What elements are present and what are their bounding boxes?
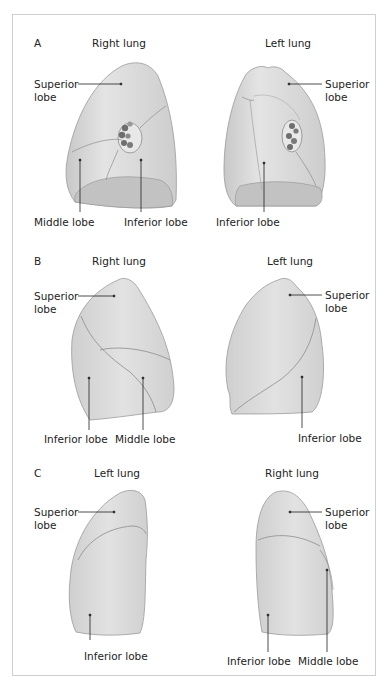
- a-left-superior-label-2: lobe: [325, 91, 347, 104]
- panel-b-left-lung: [226, 278, 324, 414]
- b-left-inferior-label: Inferior lobe: [298, 432, 362, 445]
- c-left-superior-label: Superior: [34, 506, 78, 519]
- b-right-superior-label: Superior: [34, 290, 78, 303]
- panel-a-left-title: Right lung: [92, 37, 146, 50]
- a-right-superior-label: Superior: [34, 78, 78, 91]
- panel-a-letter: A: [34, 37, 41, 50]
- panel-b-right-lung: [72, 278, 174, 420]
- panel-c-letter: C: [34, 467, 41, 480]
- a-right-superior-label-2: lobe: [34, 91, 56, 104]
- panel-a-right-title: Left lung: [265, 37, 311, 50]
- panel-b-left-title: Right lung: [92, 255, 146, 268]
- panel-c-right-title: Right lung: [265, 467, 319, 480]
- c-left-superior-label-2: lobe: [34, 519, 56, 532]
- b-right-superior-label-2: lobe: [34, 303, 56, 316]
- c-right-middle-label: Middle lobe: [298, 655, 359, 668]
- a-right-middle-label: Middle lobe: [34, 216, 95, 229]
- c-right-superior-label-2: lobe: [325, 519, 347, 532]
- b-left-superior-label: Superior: [325, 289, 369, 302]
- a-left-superior-label: Superior: [325, 78, 369, 91]
- panel-c-right-lung: [256, 491, 333, 635]
- c-right-superior-label: Superior: [325, 506, 369, 519]
- panel-b-letter: B: [34, 255, 41, 268]
- b-right-inferior-label: Inferior lobe: [44, 433, 108, 446]
- panel-b-right-title: Left lung: [267, 255, 313, 268]
- b-left-superior-label-2: lobe: [325, 302, 347, 315]
- a-left-inferior-label: Inferior lobe: [216, 216, 280, 229]
- panel-a-left-lung: [224, 66, 325, 206]
- a-right-inferior-label: Inferior lobe: [124, 216, 188, 229]
- panel-c-left-title: Left lung: [94, 467, 140, 480]
- b-right-middle-label: Middle lobe: [115, 433, 176, 446]
- c-right-inferior-label: Inferior lobe: [227, 655, 291, 668]
- c-left-inferior-label: Inferior lobe: [84, 650, 148, 663]
